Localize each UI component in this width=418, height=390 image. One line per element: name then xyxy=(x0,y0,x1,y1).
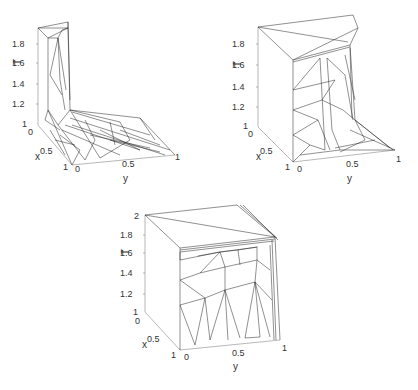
x-tick: 0.5 xyxy=(147,334,160,344)
z-tick: 1.2 xyxy=(12,99,25,109)
y-axis-label: y xyxy=(347,173,352,184)
y-tick: 0.5 xyxy=(122,159,135,169)
z-tick: 1.4 xyxy=(120,268,133,278)
x-axis-label: x xyxy=(142,339,147,350)
z-tick: 1.4 xyxy=(232,82,245,92)
figure-canvas: 1.8 1.6 1.4 1.2 1 T 0 0.5 x 1 0 0.5 1 y … xyxy=(0,0,418,390)
y-tick: 1 xyxy=(282,343,287,353)
y-tick: 0 xyxy=(184,352,189,362)
y-tick: 1 xyxy=(396,154,401,164)
x-axis-label: x xyxy=(35,151,40,162)
z-tick: 2 xyxy=(134,211,139,221)
plot-top-right: 1.8 1.6 1.4 1.2 1 T 0 0.5 x 1 0 0.5 1 y xyxy=(232,15,401,184)
z-axis-label: T xyxy=(120,249,131,255)
z-tick: 1.2 xyxy=(232,102,245,112)
y-tick: 0.5 xyxy=(346,159,359,169)
x-tick: 0.5 xyxy=(40,146,53,156)
y-tick: 1 xyxy=(175,152,180,162)
x-axis-label: x xyxy=(256,151,261,162)
z-axis-label: T xyxy=(232,61,243,67)
plot-bottom-center: 2 1.8 1.6 1.4 1.2 1 T 0 0.5 x 1 0 0.5 1 … xyxy=(120,205,287,372)
z-tick: 1.8 xyxy=(232,39,245,49)
x-tick: 0 xyxy=(135,316,140,326)
z-tick: 1.8 xyxy=(120,230,133,240)
z-tick: 1.4 xyxy=(12,79,25,89)
y-axis-label: y xyxy=(123,173,128,184)
x-tick: 1 xyxy=(285,162,290,172)
x-tick: 0 xyxy=(28,127,33,137)
y-tick: 0.5 xyxy=(232,348,245,358)
y-tick: 0 xyxy=(75,164,80,174)
plot-top-left: 1.8 1.6 1.4 1.2 1 T 0 0.5 x 1 0 0.5 1 y xyxy=(12,22,180,184)
x-tick: 0.5 xyxy=(260,146,273,156)
y-axis-label: y xyxy=(233,361,238,372)
x-tick: 0 xyxy=(248,129,253,139)
z-tick: 1.2 xyxy=(120,289,133,299)
x-tick: 1 xyxy=(63,162,68,172)
y-tick: 0 xyxy=(297,164,302,174)
x-tick: 1 xyxy=(171,350,176,360)
z-axis-label: T xyxy=(12,59,23,65)
z-tick: 1.8 xyxy=(12,39,25,49)
z-tick: 1 xyxy=(22,119,27,129)
